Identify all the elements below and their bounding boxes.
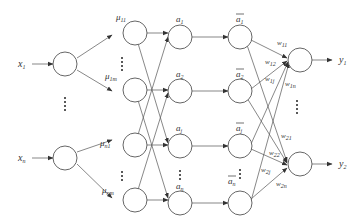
membership-node-mu11: [123, 21, 147, 45]
input-to-membership-edges: [77, 35, 112, 198]
label-w21: w21: [281, 132, 292, 141]
label-a1: a1: [176, 14, 184, 25]
output-arrows: [312, 60, 332, 164]
rule-node-aj: [168, 134, 192, 158]
label-mu1m: μ1m: [104, 71, 118, 82]
vertical-ellipsis-icon: [179, 170, 181, 180]
vertical-ellipsis-icon: [121, 57, 123, 71]
label-munm: μnm: [101, 185, 115, 196]
membership-node-munm: [123, 188, 147, 212]
input-node-x1: [53, 52, 77, 76]
label-w1j: w1j: [265, 75, 275, 84]
membership-to-rule-edges: [137, 33, 168, 200]
label-abarn: an: [228, 176, 236, 187]
label-y2: y2: [338, 158, 346, 170]
label-abarj: aj: [236, 123, 243, 134]
input-labels: x1 xn: [17, 58, 25, 164]
output-layer: [288, 48, 312, 176]
label-abar1: a1: [236, 14, 244, 25]
label-w1n: w1n: [285, 80, 296, 89]
normalized-node-abar1: [228, 25, 252, 49]
label-aj: aj: [176, 123, 183, 134]
input-arrows: [32, 64, 53, 158]
label-xn: xn: [17, 152, 25, 164]
vertical-ellipsis-icon: [239, 169, 241, 179]
rule-node-a2: [168, 79, 192, 103]
label-a2: a2: [176, 69, 184, 80]
output-labels: y1 y2: [338, 54, 346, 170]
output-node-y1: [288, 48, 312, 72]
input-node-xn: [53, 146, 77, 170]
label-mu11: μ11: [115, 12, 126, 23]
label-w11: w11: [277, 39, 287, 48]
membership-labels: μ11 μ1m μn1 μnm: [99, 12, 126, 196]
label-y1: y1: [338, 54, 346, 66]
label-w2j: w2j: [261, 166, 271, 175]
membership-node-mu1m: [123, 78, 147, 102]
normalized-node-abarn: [228, 191, 252, 215]
label-x1: x1: [17, 58, 25, 70]
rule-to-normalized-edges: [192, 37, 228, 203]
normalized-node-abarj: [228, 134, 252, 158]
label-mun1: μn1: [99, 138, 111, 149]
rule-node-a1: [168, 25, 192, 49]
vertical-ellipsis-icon: [296, 100, 298, 114]
vertical-ellipsis-icon: [64, 97, 66, 111]
label-w2n: w2n: [276, 180, 287, 189]
label-w22: w22: [269, 149, 280, 158]
membership-node-mun1: [123, 133, 147, 157]
label-abar2: a2: [236, 69, 244, 80]
label-w12: w12: [265, 58, 276, 67]
rule-node-an: [168, 191, 192, 215]
normalized-node-abar2: [228, 79, 252, 103]
fuzzy-neural-network-diagram: x1 xn μ11 μ1m μn1 μnm a1 a2 aj an a1 a2 …: [0, 0, 363, 223]
output-node-y2: [288, 152, 312, 176]
label-an: an: [176, 181, 184, 192]
vertical-ellipsis-icon: [121, 171, 123, 181]
